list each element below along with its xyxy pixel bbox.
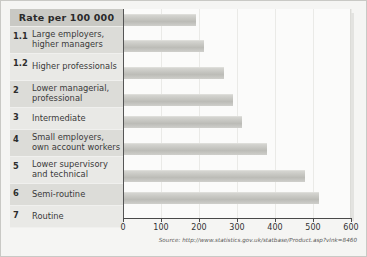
x-axis-tick-label: 100: [153, 223, 168, 232]
bar: [124, 67, 224, 79]
x-axis-tick: [313, 218, 314, 222]
x-axis-tick: [351, 218, 352, 222]
category-row: 2Lower managerial, professional: [10, 81, 123, 108]
category-row: 4Small employers, own account workers: [10, 130, 123, 157]
category-label: Small employers, own account workers: [32, 133, 123, 152]
x-axis-tick-label: 500: [305, 223, 320, 232]
source-caption: Source: http://www.statistics.gov.uk/sta…: [1, 237, 357, 243]
category-label: Lower supervisory and technical: [32, 160, 123, 179]
x-axis-tick-label: 200: [191, 223, 206, 232]
x-axis-tick: [237, 218, 238, 222]
bar: [124, 116, 242, 128]
gridline: [275, 9, 276, 218]
plot-area: [123, 9, 351, 218]
x-axis-tick: [199, 218, 200, 222]
category-number: 5: [13, 157, 32, 171]
gridline: [237, 9, 238, 218]
category-number: 7: [13, 206, 32, 220]
x-axis-tick-label: 600: [343, 223, 358, 232]
x-axis-tick-label: 0: [120, 223, 125, 232]
x-axis-tick-label: 400: [267, 223, 282, 232]
category-number: 4: [13, 130, 32, 144]
bar: [124, 40, 204, 52]
category-row: 6Semi-routine: [10, 184, 123, 206]
category-number: 6: [13, 184, 32, 198]
bar: [124, 94, 233, 106]
category-label-column: Rate per 100 000 1.1Large employers, hig…: [10, 9, 123, 228]
x-axis-tick: [275, 218, 276, 222]
category-row: 1.2Higher professionals: [10, 54, 123, 81]
bar: [124, 143, 267, 155]
category-label: Lower managerial, professional: [32, 84, 123, 103]
bar: [124, 170, 305, 182]
category-number: 3: [13, 108, 32, 122]
panel-shadow: [351, 13, 354, 221]
x-axis: 0100200300400500600: [123, 218, 351, 219]
category-label: Routine: [32, 212, 64, 222]
category-row: 5Lower supervisory and technical: [10, 157, 123, 184]
x-axis-tick: [161, 218, 162, 222]
category-number: 2: [13, 81, 32, 95]
category-label: Higher professionals: [32, 62, 117, 72]
chart-figure: Rate per 100 000 1.1Large employers, hig…: [0, 0, 367, 257]
category-row-list: 1.1Large employers, higher managers1.2Hi…: [10, 27, 123, 228]
category-label: Intermediate: [32, 114, 86, 124]
bar: [124, 192, 319, 204]
category-label: Semi-routine: [32, 190, 85, 200]
x-axis-tick-label: 300: [229, 223, 244, 232]
category-row: 1.1Large employers, higher managers: [10, 27, 123, 54]
category-number: 1.1: [13, 27, 32, 41]
category-label: Large employers, higher managers: [32, 30, 123, 49]
gridline: [313, 9, 314, 218]
x-axis-tick: [123, 218, 124, 222]
bar: [124, 14, 196, 26]
category-number: 1.2: [13, 54, 32, 68]
category-row: 3Intermediate: [10, 108, 123, 130]
category-row: 7Routine: [10, 206, 123, 228]
rate-header-band: Rate per 100 000: [10, 9, 123, 27]
